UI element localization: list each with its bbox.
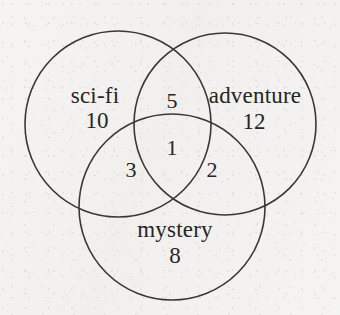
label-adventure: adventure (209, 83, 301, 108)
label-mystery: mystery (137, 217, 213, 242)
count-sci-fi-mystery: 3 (126, 157, 137, 182)
count-mystery-only: 8 (169, 243, 181, 268)
circle-adventure (134, 33, 316, 215)
count-adventure-mystery: 2 (207, 157, 218, 182)
count-adventure-only: 12 (243, 109, 266, 134)
circle-sci-fi (25, 31, 211, 217)
venn-diagram-page: sci-fi 10 adventure 12 mystery 8 5 3 2 1 (0, 0, 340, 315)
count-sci-fi-adventure: 5 (167, 88, 178, 113)
count-all-three: 1 (167, 135, 178, 160)
venn-diagram: sci-fi 10 adventure 12 mystery 8 5 3 2 1 (0, 0, 340, 315)
count-sci-fi-only: 10 (86, 108, 109, 133)
label-sci-fi: sci-fi (71, 83, 119, 108)
